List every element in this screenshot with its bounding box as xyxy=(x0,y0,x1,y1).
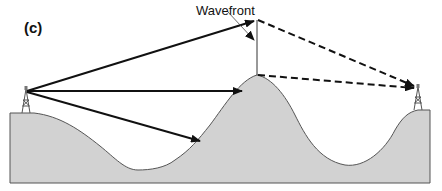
receiver-tower-icon xyxy=(414,84,422,110)
ray-upper xyxy=(27,21,254,91)
diffraction-diagram xyxy=(0,0,442,191)
wavefront-pointer xyxy=(228,12,254,40)
